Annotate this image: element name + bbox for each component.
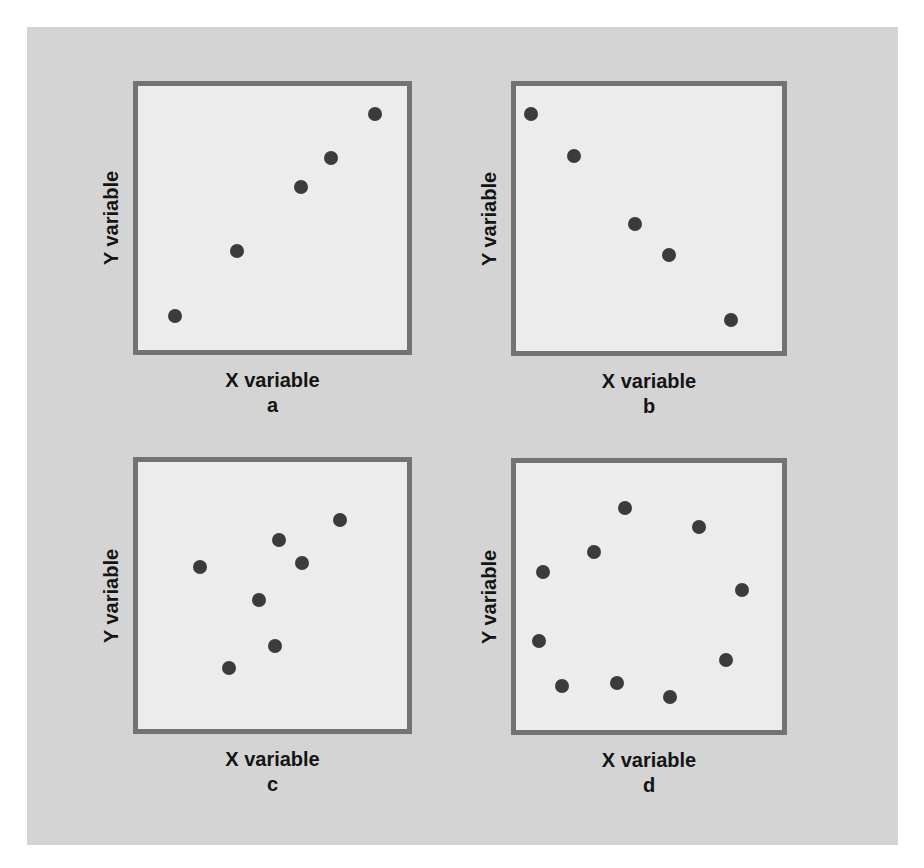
panel-label: b xyxy=(509,394,789,418)
data-point xyxy=(662,248,676,262)
y-axis-label: Y variable xyxy=(477,497,501,697)
data-point xyxy=(555,679,569,693)
data-point xyxy=(230,244,244,258)
y-axis-label: Y variable xyxy=(99,118,123,318)
panel-label: a xyxy=(133,393,413,417)
data-point xyxy=(193,560,207,574)
data-point xyxy=(567,149,581,163)
x-axis-label: X variable xyxy=(133,368,413,392)
y-axis-label: Y variable xyxy=(99,496,123,696)
data-point xyxy=(272,533,286,547)
x-axis-label: X variable xyxy=(509,369,789,393)
scatterplot-a xyxy=(133,81,412,355)
data-point xyxy=(295,556,309,570)
data-point xyxy=(663,690,677,704)
data-point xyxy=(222,661,236,675)
data-point xyxy=(532,634,546,648)
data-point xyxy=(618,501,632,515)
x-axis-label: X variable xyxy=(133,747,413,771)
panel-label: c xyxy=(133,772,413,796)
y-axis-label: Y variable xyxy=(477,119,501,319)
panel-label: d xyxy=(509,773,789,797)
data-point xyxy=(333,513,347,527)
data-point xyxy=(536,565,550,579)
data-point xyxy=(252,593,266,607)
data-point xyxy=(294,180,308,194)
data-point xyxy=(368,107,382,121)
data-point xyxy=(524,107,538,121)
data-point xyxy=(735,583,749,597)
data-point xyxy=(168,309,182,323)
x-axis-label: X variable xyxy=(509,748,789,772)
data-point xyxy=(587,545,601,559)
scatterplot-d xyxy=(511,458,787,735)
data-point xyxy=(692,520,706,534)
scatterplot-c xyxy=(133,457,412,734)
scatterplot-b xyxy=(511,81,787,356)
data-point xyxy=(628,217,642,231)
data-point xyxy=(324,151,338,165)
data-point xyxy=(719,653,733,667)
data-point xyxy=(268,639,282,653)
data-point xyxy=(610,676,624,690)
data-point xyxy=(724,313,738,327)
